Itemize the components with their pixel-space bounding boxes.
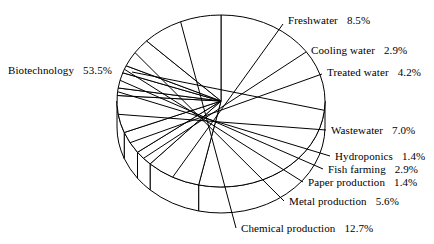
pie-slice-label: Hydroponics1.4% <box>335 150 425 162</box>
pie-slice-label: Treated water4.2% <box>327 66 421 78</box>
pie-slice-label-value: 2.9% <box>395 163 418 175</box>
pie-chart-figure: Biotechnology53.5%Freshwater8.5%Cooling … <box>0 0 434 244</box>
pie-slice-label-value: 12.7% <box>344 222 373 234</box>
pie-slice-label: Freshwater8.5% <box>288 14 370 26</box>
pie-slice-label-value: 1.4% <box>402 150 425 162</box>
pie-slice-label-name: Treated water <box>327 66 389 78</box>
pie-slice-label: Cooling water2.9% <box>311 44 407 56</box>
pie-slice-label-value: 53.5% <box>83 64 112 76</box>
pie-slice-label: Wastewater7.0% <box>331 124 415 136</box>
pie-slice-label-value: 4.2% <box>398 66 421 78</box>
pie-slice-label-name: Metal production <box>289 195 367 207</box>
pie-slice-label-name: Fish farming <box>328 163 386 175</box>
pie-slice-label-name: Biotechnology <box>8 64 74 76</box>
pie-slice-label: Chemical production12.7% <box>241 222 373 234</box>
pie-slice-label: Metal production5.6% <box>289 195 399 207</box>
pie-slice-label-name: Paper production <box>308 176 385 188</box>
pie-slice-label-name: Freshwater <box>288 14 338 26</box>
pie-slice-label-value: 2.9% <box>384 44 407 56</box>
pie-slice-label-name: Wastewater <box>331 124 383 136</box>
pie-slice-label-value: 5.6% <box>376 195 399 207</box>
pie-slice-label-value: 8.5% <box>347 14 370 26</box>
pie-slice-label: Paper production1.4% <box>308 176 417 188</box>
pie-slice-label: Biotechnology53.5% <box>8 64 112 76</box>
pie-slice-label: Fish farming2.9% <box>328 163 418 175</box>
pie-slice-label-value: 1.4% <box>394 176 417 188</box>
pie-slice-label-name: Hydroponics <box>335 150 393 162</box>
pie-chart-svg <box>0 0 434 244</box>
pie-slice-label-name: Cooling water <box>311 44 375 56</box>
pie-slice-label-value: 7.0% <box>392 124 415 136</box>
pie-slice-label-name: Chemical production <box>241 222 335 234</box>
